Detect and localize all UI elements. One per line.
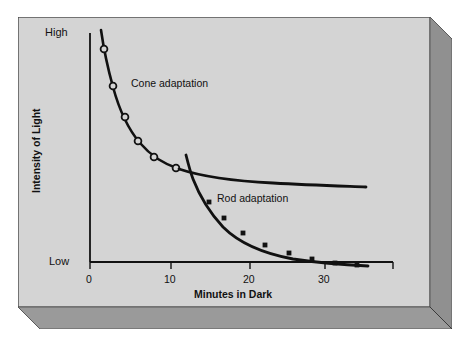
rod-adaptation-annotation: Rod adaptation — [217, 193, 288, 204]
x-axis-title: Minutes in Dark — [194, 289, 272, 300]
cone-adaptation-annotation: Cone adaptation — [131, 78, 208, 89]
x-tick-label-30: 30 — [318, 274, 330, 285]
rod-data-point — [287, 251, 292, 256]
cone-data-point — [151, 154, 158, 161]
rod-data-point — [222, 216, 227, 221]
rod-data-point — [263, 243, 268, 248]
rod-data-point — [310, 257, 315, 262]
plot-canvas — [18, 17, 430, 307]
cone-data-point — [110, 83, 117, 90]
y-axis-high-label: High — [45, 27, 68, 38]
plot-panel: High Low Intensity of Light 0 10 20 30 M… — [18, 17, 430, 307]
panel-background — [18, 17, 430, 307]
x-tick-label-20: 20 — [243, 274, 255, 285]
y-axis-low-label: Low — [49, 256, 69, 267]
rod-data-point — [241, 231, 246, 236]
x-tick-label-0: 0 — [86, 274, 92, 285]
cone-data-point — [122, 114, 129, 121]
x-tick-label-10: 10 — [164, 274, 176, 285]
y-axis-title: Intensity of Light — [30, 108, 42, 193]
rod-data-point — [355, 263, 360, 268]
rod-data-point — [207, 200, 212, 205]
rod-data-point — [333, 261, 338, 266]
dark-adaptation-figure: High Low Intensity of Light 0 10 20 30 M… — [0, 0, 468, 346]
cone-data-point — [101, 46, 108, 53]
cone-data-point — [135, 138, 142, 145]
